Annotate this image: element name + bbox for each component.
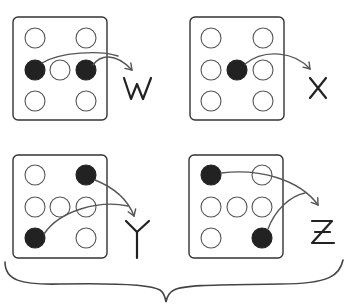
dot-filled — [252, 228, 272, 248]
dot-empty — [76, 91, 96, 111]
panel-x — [190, 17, 326, 120]
diagram-svg — [0, 0, 350, 306]
curly-brace — [5, 260, 343, 302]
letter-z-glyph — [312, 221, 334, 243]
dot-filled — [76, 60, 96, 80]
dot-empty — [252, 197, 272, 217]
diagram-canvas: W X Y Z — [0, 0, 350, 306]
panel-w — [13, 17, 151, 120]
letter-x-glyph — [310, 78, 326, 98]
panel-y — [13, 155, 149, 258]
dot-filled — [25, 228, 45, 248]
dot-empty — [201, 28, 221, 48]
dot-empty — [25, 197, 45, 217]
letter-y-glyph — [126, 221, 149, 258]
dot-filled — [227, 60, 247, 80]
dot-empty — [76, 228, 96, 248]
dot-empty — [201, 91, 221, 111]
dot-filled — [76, 165, 96, 185]
letter-w-glyph — [124, 78, 151, 99]
dot-empty — [253, 60, 273, 80]
dot-empty — [25, 165, 45, 185]
dot-empty — [201, 60, 221, 80]
dot-empty — [25, 28, 45, 48]
dot-empty — [253, 91, 273, 111]
dot-empty — [201, 197, 221, 217]
dot-filled — [201, 165, 221, 185]
dot-empty — [201, 228, 221, 248]
dot-empty — [76, 28, 96, 48]
dot-empty — [50, 60, 70, 80]
dot-empty — [253, 28, 273, 48]
panel-z — [189, 155, 334, 258]
dot-empty — [227, 197, 247, 217]
dot-empty — [25, 91, 45, 111]
